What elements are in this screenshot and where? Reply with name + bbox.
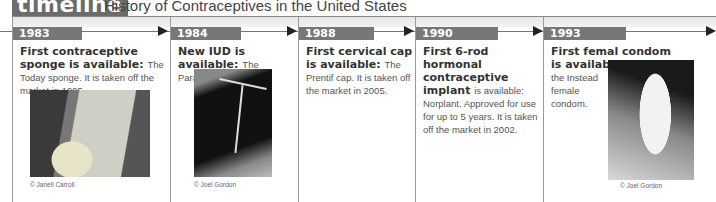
timeline-event-1990: 1990 First 6-rod hormonal contraceptive … xyxy=(415,17,543,202)
arrow-icon xyxy=(533,26,543,36)
event-title: First 6-rod hormonal contraceptive impla… xyxy=(423,45,543,136)
timeline-event-1988: 1988 First cervical cap is available: Th… xyxy=(298,17,415,202)
event-title: First cervical cap is available: The Pre… xyxy=(306,45,414,97)
event-topbar xyxy=(13,17,170,27)
female-condom-photo xyxy=(608,60,694,180)
timeline-event-1983: 1983 First contraceptive sponge is avail… xyxy=(12,17,170,202)
year-badge: 1990 xyxy=(416,27,498,40)
year-badge: 1984 xyxy=(171,27,241,40)
arrow-icon xyxy=(287,26,297,36)
photo-credit: © Joel Gordon xyxy=(194,181,236,188)
event-body: the Instead female condom. xyxy=(551,71,599,110)
arrow-icon xyxy=(404,26,414,36)
header-title: History of Contraceptives in the United … xyxy=(104,0,407,15)
event-topbar xyxy=(299,17,415,27)
year-badge: 1988 xyxy=(299,27,374,40)
iud-shape xyxy=(234,85,243,153)
event-topbar xyxy=(171,17,298,27)
year-badge: 1983 xyxy=(13,27,82,40)
event-topbar xyxy=(416,17,543,27)
sponge-photo xyxy=(30,90,150,177)
event-topbar xyxy=(544,17,716,27)
event-title-bold: New IUD is available: xyxy=(178,45,245,71)
timeline-event-1984: 1984 New IUD is available: The ParaGard … xyxy=(170,17,298,202)
iud-photo xyxy=(194,69,272,177)
arrow-icon xyxy=(158,26,168,36)
photo-credit: © Janell Carroll xyxy=(30,181,75,188)
year-badge: 1993 xyxy=(544,27,626,40)
photo-credit: © Joel Gordon xyxy=(620,182,662,189)
timeline-event-1993: 1993 First femal condom is available: th… xyxy=(543,17,716,202)
arrow-icon xyxy=(706,26,716,36)
event-title-bold: First contraceptive sponge is available: xyxy=(20,45,144,71)
